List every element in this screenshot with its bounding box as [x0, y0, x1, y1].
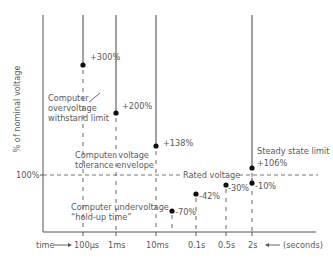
x-axis-suffix: (seconds): [283, 240, 323, 250]
annotation-envelope-line1: Computer voltage: [75, 150, 149, 160]
x-tick-label-1ms: 1ms: [108, 240, 125, 250]
y-reference-label: 100%: [16, 170, 39, 180]
label-minus30: -30%: [228, 183, 249, 193]
annotation-withstand-line1: Computer: [48, 93, 89, 103]
point-minus70: [169, 208, 174, 213]
x-tick-label-100us: 100μs: [74, 240, 99, 250]
label-minus70: -70%: [175, 207, 196, 217]
annotation-withstand-line3: withstand limit: [48, 113, 109, 123]
rated-voltage-label: Rated voltage: [183, 170, 240, 180]
voltage-tolerance-diagram: [0, 0, 333, 265]
point-plus106: [249, 165, 254, 170]
annotation-holdup-line1: Computer undervoltage: [71, 202, 169, 212]
annotation-steady-state: Steady state limit: [257, 146, 329, 156]
point-minus42: [193, 191, 198, 196]
point-plus138: [153, 143, 158, 148]
x-tick-label-2s: 2s: [248, 240, 257, 250]
x-tick-label-01s: 0.1s: [188, 240, 205, 250]
time-arrow-head: [68, 243, 72, 247]
label-plus106: +106%: [257, 158, 287, 168]
seconds-arrow-head: [265, 243, 269, 247]
annotation-holdup-line2: “hold-up time”: [71, 212, 132, 222]
label-plus138: +138%: [163, 138, 193, 148]
point-plus200: [113, 110, 118, 115]
point-plus300: [80, 62, 85, 67]
withstand-pointer: [89, 93, 100, 102]
label-plus200: +200%: [122, 101, 152, 111]
annotation-envelope-line2: tolerance envelope: [75, 160, 154, 170]
point-minus10: [249, 180, 254, 185]
annotation-withstand-line2: overvoltage: [48, 103, 97, 113]
y-axis-label: % of nominal voltage: [12, 64, 22, 154]
x-tick-label-05s: 0.5s: [218, 240, 235, 250]
label-minus42: -42%: [199, 191, 220, 201]
x-tick-label-10ms: 10ms: [146, 240, 169, 250]
x-axis-prefix: time: [36, 240, 55, 250]
label-minus10: -10%: [255, 181, 276, 191]
label-plus300: +300%: [90, 52, 120, 62]
